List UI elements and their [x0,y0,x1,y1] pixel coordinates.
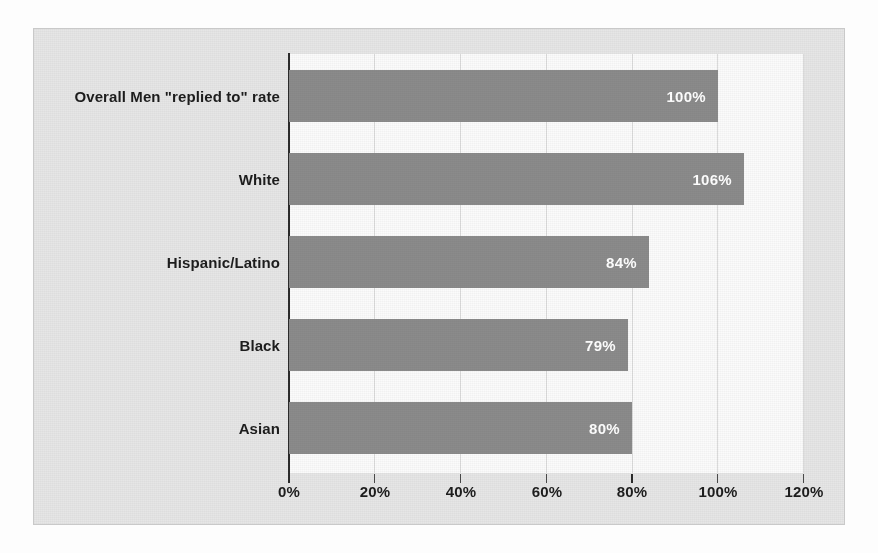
x-tick-label-40: 40% [446,483,477,500]
x-tick-mark-120 [803,474,804,483]
bar-row: 100% [289,70,804,122]
x-tick-label-120: 120% [784,483,823,500]
category-label-black: Black [239,337,280,354]
bar-hispanic-latino: 84% [289,236,649,288]
bar-row: 80% [289,402,804,454]
bar-value-label: 79% [585,337,616,354]
x-tick-label-100: 100% [698,483,737,500]
bar-value-label: 106% [692,171,732,188]
bar-asian: 80% [289,402,632,454]
bar-overall-men: 100% [289,70,718,122]
x-tick-label-60: 60% [532,483,563,500]
x-tick-mark-100 [717,474,718,483]
category-label-overall-men: Overall Men "replied to" rate [74,88,280,105]
category-label-hispanic-latino: Hispanic/Latino [167,254,280,271]
category-axis-labels: Overall Men "replied to" rate White Hisp… [34,29,280,524]
bar-value-label: 100% [666,88,706,105]
x-tick-label-0: 0% [278,483,300,500]
x-tick-label-20: 20% [360,483,391,500]
x-tick-mark-20 [374,474,375,483]
x-tick-mark-60 [546,474,547,483]
x-tick-mark-0 [288,474,290,483]
x-tick-mark-80 [631,474,633,483]
bar-white: 106% [289,153,744,205]
bar-black: 79% [289,319,628,371]
bar-row: 106% [289,153,804,205]
category-label-white: White [239,171,280,188]
category-label-asian: Asian [239,420,280,437]
x-tick-mark-40 [460,474,461,483]
x-tick-label-80: 80% [617,483,648,500]
chart-screenshot: 100% 106% 84% 79% 80% Overall Men "repl [0,0,878,553]
bar-value-label: 84% [606,254,637,271]
bar-row: 84% [289,236,804,288]
bar-row: 79% [289,319,804,371]
bar-value-label: 80% [589,420,620,437]
chart-card: 100% 106% 84% 79% 80% Overall Men "repl [33,28,845,525]
